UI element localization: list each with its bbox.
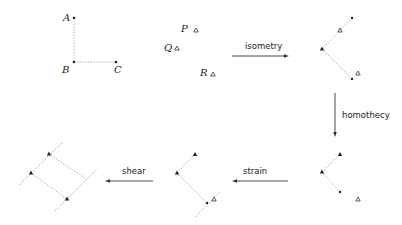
triangle-icon (175, 171, 179, 175)
homothecy-label: homothecy (342, 110, 390, 120)
triangle-r-icon (211, 72, 216, 76)
point-b (73, 61, 76, 64)
isometry-result (320, 17, 360, 80)
label-a: A (62, 12, 70, 23)
label-r: R (199, 67, 208, 78)
isometry-arrow: isometry (232, 41, 289, 58)
strain-result (175, 152, 221, 217)
point-a (73, 17, 76, 20)
label-b: B (61, 64, 69, 75)
triangle-icon (356, 71, 360, 75)
label-p: P (180, 23, 188, 34)
triangle-p-icon (194, 28, 199, 32)
shear-result (19, 143, 97, 211)
original-figure: A B C (61, 12, 122, 75)
triangle-icon (29, 171, 33, 175)
shear-label: shear (122, 166, 146, 176)
triangle-icon (320, 47, 324, 51)
target-points: P Q R (164, 23, 215, 78)
triangle-icon (338, 152, 342, 156)
strain-label: strain (243, 166, 267, 176)
triangle-icon (320, 170, 324, 174)
shear-arrow: shear (105, 166, 153, 183)
homothecy-result (320, 152, 360, 201)
label-q: Q (164, 42, 172, 53)
triangle-icon (193, 152, 197, 156)
point-c (115, 61, 118, 64)
transformation-diagram: A B C P Q R isometry homothecy (0, 0, 402, 225)
triangle-icon (356, 197, 360, 201)
triangle-icon (212, 197, 216, 201)
label-c: C (114, 64, 122, 75)
strain-arrow: strain (232, 166, 288, 183)
triangle-q-icon (175, 46, 180, 50)
triangle-icon (47, 152, 51, 156)
triangle-icon (65, 197, 69, 201)
homothecy-arrow: homothecy (333, 93, 390, 137)
isometry-label: isometry (245, 41, 282, 51)
